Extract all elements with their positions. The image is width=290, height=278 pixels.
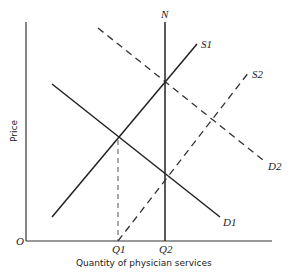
d1-curve <box>52 84 220 217</box>
origin-label: O <box>16 235 24 247</box>
diagram-canvas: N S1 S2 D2 D1 O Q1 Q2 Quantity of physic… <box>0 0 290 278</box>
label-d2: D2 <box>267 160 282 172</box>
label-s1: S1 <box>201 38 212 50</box>
supply-demand-diagram: N S1 S2 D2 D1 O Q1 Q2 Quantity of physic… <box>0 0 290 278</box>
tick-q2: Q2 <box>159 243 173 255</box>
s1-curve <box>52 44 197 217</box>
y-axis-label: Price <box>9 120 19 142</box>
label-d1: D1 <box>222 216 236 228</box>
x-axis-label: Quantity of physician services <box>76 258 212 268</box>
label-n: N <box>160 8 169 20</box>
tick-q1: Q1 <box>112 243 125 255</box>
label-s2: S2 <box>252 68 264 80</box>
